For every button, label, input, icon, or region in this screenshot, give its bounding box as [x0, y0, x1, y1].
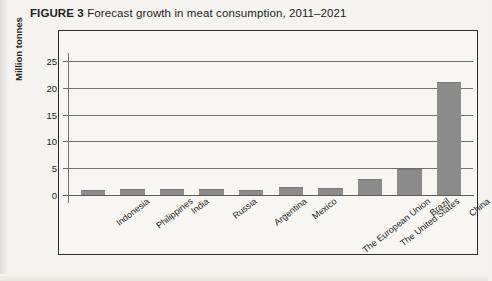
bar-top-edge [397, 169, 422, 170]
gridline [68, 61, 473, 62]
y-axis-tick-label: 0 [52, 190, 57, 201]
bar [397, 169, 422, 195]
y-axis-tick-labels: 0510152025 [37, 31, 57, 256]
x-axis-label: Argentina [272, 196, 309, 228]
gridline [68, 141, 473, 142]
bar [437, 82, 462, 195]
x-axis-label: Russia [230, 196, 258, 221]
figure-number: 3 [77, 7, 84, 19]
y-axis-line [68, 53, 69, 203]
bar-top-edge [318, 188, 343, 189]
bar-top-edge [437, 82, 462, 83]
figure-title-text: Forecast growth in meat consumption, 201… [87, 7, 346, 19]
figure-caption: FIGURE 3 Forecast growth in meat consump… [30, 7, 347, 19]
y-axis-tick-label: 5 [52, 163, 57, 174]
x-axis-label: Indonesia [114, 196, 151, 228]
bar-top-edge [81, 190, 106, 191]
y-axis-title: Million tonnes [13, 0, 24, 81]
x-axis-label: China [467, 196, 492, 218]
bar [358, 179, 383, 195]
bar-top-edge [279, 187, 304, 188]
y-axis-tick-label: 15 [46, 109, 57, 120]
bar-top-edge [199, 189, 224, 190]
bar-top-edge [358, 179, 383, 180]
x-axis-category-labels: IndonesiaPhilippinesIndiaRussiaArgentina… [58, 194, 488, 280]
y-axis-tick-label: 10 [46, 136, 57, 147]
bar-top-edge [160, 189, 185, 190]
x-axis-label: India [189, 196, 211, 216]
bar-top-edge [120, 189, 145, 190]
gridline [68, 115, 473, 116]
x-axis-label: Philippines [155, 196, 195, 231]
gridline [68, 88, 473, 89]
figure-label: FIGURE [30, 7, 74, 19]
x-axis-label: Mexico [310, 196, 339, 221]
bar-top-edge [239, 190, 264, 191]
y-axis-tick-label: 20 [46, 82, 57, 93]
y-axis-tick-label: 25 [46, 56, 57, 67]
page-edge-shadow-left [0, 0, 9, 281]
